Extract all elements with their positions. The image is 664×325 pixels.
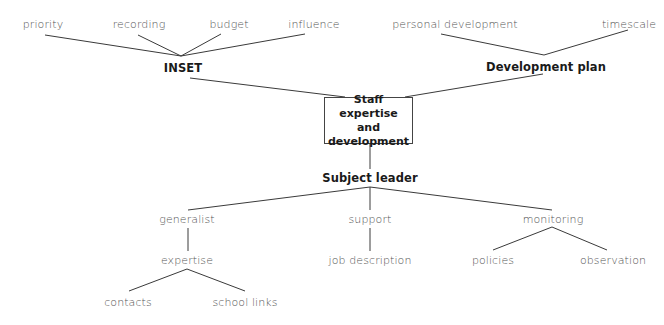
node-expertise: expertise (161, 254, 213, 267)
node-generalist: generalist (159, 213, 215, 226)
node-support: support (349, 213, 392, 226)
center-line-3: development (325, 135, 412, 149)
node-school-links: school links (212, 296, 277, 309)
node-budget: budget (209, 18, 248, 31)
node-influence: influence (288, 18, 339, 31)
node-development-plan: Development plan (486, 60, 606, 74)
connector-lines (0, 0, 664, 325)
node-observation: observation (580, 254, 646, 267)
node-contacts: contacts (104, 296, 152, 309)
node-priority: priority (23, 18, 64, 31)
node-timescale: timescale (602, 18, 656, 31)
node-subject-leader: Subject leader (322, 171, 417, 185)
node-inset: INSET (164, 61, 202, 75)
node-job-description: job description (329, 254, 412, 267)
node-personal-development: personal development (392, 18, 518, 31)
center-line-2: and (325, 121, 412, 135)
center-line-1: Staff expertise (325, 93, 412, 121)
node-recording: recording (113, 18, 166, 31)
node-policies: policies (472, 254, 514, 267)
node-monitoring: monitoring (523, 213, 584, 226)
central-node-staff-expertise: Staff expertise and development (324, 97, 413, 144)
